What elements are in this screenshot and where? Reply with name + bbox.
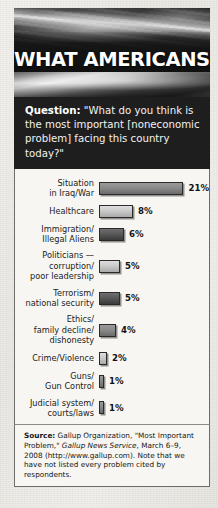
bar-label: Healthcare (19, 206, 99, 216)
bar-label: Crime/Violence (19, 353, 99, 363)
source-panel: Source: Gallup Organization, "Most Impor… (14, 424, 210, 487)
bar-row: Crime/Violence2% (15, 352, 209, 365)
question-text: Question: "What do you think is the most… (25, 104, 200, 161)
bar-track: 2% (99, 352, 209, 365)
bar-chart: Situationin Iraq/War21%Healthcare8%Immig… (14, 169, 210, 425)
page-background: WHAT AMERICANS THINK Question: "What do … (0, 0, 218, 508)
bar-row: Immigration/Illegal Aliens6% (15, 224, 209, 245)
bar-track: 6% (99, 228, 209, 241)
bar-label: Judicial system/courts/laws (19, 398, 99, 419)
bar-row: Politicians —corruption/poor leadership5… (15, 250, 209, 281)
bar-value-label: 5% (120, 261, 140, 271)
bar-track: 1% (99, 375, 209, 388)
bar-value-label: 8% (133, 206, 153, 216)
page-title: WHAT AMERICANS THINK (14, 50, 210, 70)
bar-row: Judicial system/courts/laws1% (15, 398, 209, 419)
bar-fill (99, 205, 133, 218)
source-label: Source: (24, 431, 55, 440)
bar-track: 5% (99, 260, 209, 273)
bar-label: Situationin Iraq/War (19, 178, 99, 199)
bar-track: 1% (99, 401, 209, 414)
bar-fill (99, 182, 183, 195)
question-label: Question: (25, 105, 81, 116)
bar-value-label: 1% (104, 376, 124, 386)
bar-track: 8% (99, 205, 209, 218)
bar-value-label: 6% (124, 229, 144, 239)
bar-label: Ethics/family decline/dishonesty (19, 314, 99, 345)
bar-row: Situationin Iraq/War21% (15, 178, 209, 199)
bar-row: Terrorism/national security5% (15, 288, 209, 309)
infographic-card: WHAT AMERICANS THINK Question: "What do … (14, 8, 210, 500)
bar-track: 5% (99, 292, 209, 305)
bar-value-label: 21% (183, 183, 209, 193)
bar-fill (99, 352, 107, 365)
header-banner: WHAT AMERICANS THINK (14, 8, 210, 72)
bar-track: 4% (99, 324, 209, 337)
bar-fill (99, 260, 120, 273)
bar-fill (99, 228, 124, 241)
bar-label: Immigration/Illegal Aliens (19, 224, 99, 245)
bar-row: Ethics/family decline/dishonesty4% (15, 314, 209, 345)
bar-fill (99, 292, 120, 305)
bar-value-label: 4% (116, 325, 136, 335)
bar-value-label: 1% (104, 403, 124, 413)
bar-value-label: 2% (107, 353, 127, 363)
bar-row: Guns/Gun Control1% (15, 371, 209, 392)
source-publication: Gallup News Service (62, 441, 137, 450)
bar-row: Healthcare8% (15, 205, 209, 218)
bar-fill (99, 324, 116, 337)
question-panel: Question: "What do you think is the most… (14, 97, 210, 169)
flag-strip-decoration (14, 72, 210, 97)
bar-value-label: 5% (120, 293, 140, 303)
bar-label: Politicians —corruption/poor leadership (19, 250, 99, 281)
bar-label: Terrorism/national security (19, 288, 99, 309)
bar-label: Guns/Gun Control (19, 371, 99, 392)
source-text: Source: Gallup Organization, "Most Impor… (24, 431, 200, 479)
bar-track: 21% (99, 182, 209, 195)
